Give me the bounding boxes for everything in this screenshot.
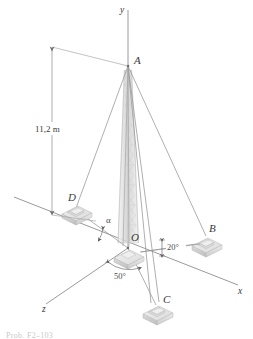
cable-AB (128, 66, 206, 236)
tower-base-block (114, 250, 144, 269)
label-A: A (133, 54, 141, 66)
angle-label-20: 20° (167, 242, 179, 252)
tower-diagram-svg: A D B (0, 0, 253, 339)
anchor-block-B (192, 238, 222, 257)
figure-caption: Prob. F2–103 (6, 331, 53, 339)
label-C: C (163, 293, 171, 305)
label-D: D (67, 191, 76, 203)
dimension-label-height: 11,2 m (35, 124, 60, 134)
figure-container: A D B (0, 0, 253, 339)
angle-label-50: 50° (114, 271, 126, 281)
anchor-block-C (143, 306, 173, 325)
anchor-block-D (62, 206, 92, 225)
angle-alpha-arc (99, 228, 103, 240)
point-O-marker (127, 247, 129, 249)
label-axis-y: y (119, 5, 125, 15)
angle-label-alpha: α (106, 215, 111, 225)
label-B: B (209, 222, 216, 234)
label-axis-x: x (237, 286, 243, 296)
label-axis-z: z (41, 304, 46, 314)
label-O: O (131, 231, 139, 243)
guy-cables (76, 66, 206, 303)
